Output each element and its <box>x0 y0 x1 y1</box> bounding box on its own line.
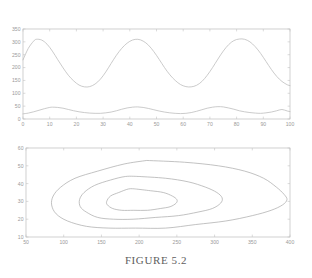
y-tick-label: 100 <box>12 90 21 96</box>
y-tick-label: 20 <box>18 216 24 222</box>
y-tick-label: 50 <box>15 103 21 109</box>
y-tick-label: 200 <box>12 64 21 70</box>
y-tick-label: 250 <box>12 52 21 58</box>
x-tick-label: 0 <box>22 121 25 127</box>
x-tick-label: 150 <box>97 239 106 245</box>
phase-plane-plot-panel: 102030405060 50100150200250300350400 <box>0 136 312 248</box>
series-predator <box>23 107 290 114</box>
x-tick-label: 300 <box>210 239 219 245</box>
x-tick-label: 50 <box>23 239 29 245</box>
x-tick-label: 40 <box>127 121 133 127</box>
bottom-axis-group: 102030405060 50100150200250300350400 <box>18 145 295 245</box>
top-axis-group: 050100150200250300350 010203040506070809… <box>12 26 294 127</box>
x-tick-label: 80 <box>234 121 240 127</box>
x-tick-label: 50 <box>154 121 160 127</box>
y-tick-label: 50 <box>18 163 24 169</box>
x-tick-label: 70 <box>207 121 213 127</box>
series-prey <box>23 39 290 87</box>
x-tick-label: 400 <box>286 239 295 245</box>
top-data-series-group <box>23 39 290 114</box>
time-series-chart: 050100150200250300350 010203040506070809… <box>0 8 312 130</box>
y-tick-label: 300 <box>12 39 21 45</box>
y-tick-label: 60 <box>18 145 24 151</box>
x-tick-label: 250 <box>173 239 182 245</box>
y-tick-label: 0 <box>18 116 21 122</box>
x-tick-label: 30 <box>100 121 106 127</box>
phase-plane-chart: 102030405060 50100150200250300350400 <box>0 136 312 248</box>
bottom-x-axis-ticks: 50100150200250300350400 <box>23 148 294 245</box>
x-tick-label: 90 <box>260 121 266 127</box>
bottom-plot-frame <box>26 148 290 237</box>
figure-caption: FIGURE 5.2 <box>0 254 312 266</box>
y-tick-label: 30 <box>18 198 24 204</box>
figure-sheet: 050100150200250300350 010203040506070809… <box>0 0 312 278</box>
series-orbit-inner <box>106 189 177 211</box>
top-plot-frame <box>23 29 290 119</box>
x-tick-label: 60 <box>180 121 186 127</box>
y-tick-label: 40 <box>18 181 24 187</box>
series-orbit-middle <box>79 176 222 219</box>
x-tick-label: 100 <box>59 239 68 245</box>
x-tick-label: 200 <box>135 239 144 245</box>
bottom-y-axis-ticks: 102030405060 <box>18 145 290 240</box>
top-x-axis-ticks: 0102030405060708090100 <box>22 29 295 127</box>
x-tick-label: 20 <box>74 121 80 127</box>
time-series-plot-panel: 050100150200250300350 010203040506070809… <box>0 8 312 130</box>
x-tick-label: 350 <box>248 239 257 245</box>
bottom-orbit-series-group <box>51 160 287 228</box>
y-tick-label: 150 <box>12 77 21 83</box>
x-tick-label: 100 <box>286 121 295 127</box>
x-tick-label: 10 <box>47 121 53 127</box>
y-tick-label: 350 <box>12 26 21 32</box>
